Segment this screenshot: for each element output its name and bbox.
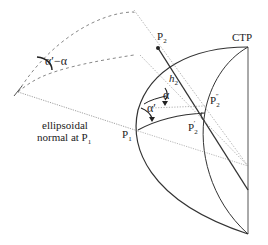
- normal-label-line1: ellipsoidal: [42, 119, 88, 131]
- dotted-line-1: [134, 10, 248, 166]
- dashed-curve-middle: [18, 55, 134, 92]
- outer-meridian-arc: [136, 47, 248, 234]
- p2-prime-label: P2′: [188, 119, 198, 136]
- dashed-curve-upper: [18, 12, 134, 92]
- ctp-label: CTP: [232, 31, 252, 43]
- alpha-label: α: [163, 88, 170, 102]
- dotted-p1-p2pp: [150, 106, 205, 108]
- dotted-line-2: [140, 55, 248, 166]
- geodesy-diagram: CTP P2 h2 α α′ P2″ P2′ P1 α′−α ellipsoid…: [0, 0, 268, 245]
- p2-point: [156, 46, 160, 50]
- h2-label: h2: [169, 72, 179, 87]
- normal-p2: [158, 48, 248, 190]
- alpha-diff-label: α′−α: [45, 54, 68, 68]
- p2-label: P2: [157, 30, 167, 45]
- inner-meridian-arc: [203, 47, 248, 234]
- alpha-prime-label: α′: [147, 101, 156, 115]
- p2-double-prime-label: P2″: [210, 92, 220, 109]
- arrow-alpha-prime: [149, 117, 155, 122]
- p1-label: P1: [122, 128, 132, 143]
- normal-label-line2: normal at P1: [37, 131, 92, 146]
